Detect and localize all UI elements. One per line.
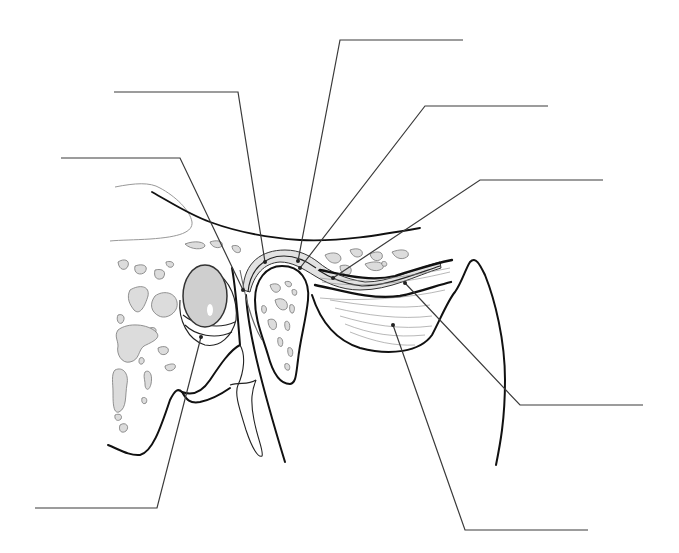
cancellous-bone-eminence: [325, 249, 408, 275]
leader-6: [403, 281, 643, 405]
leader-1: [296, 40, 463, 263]
leader-7: [391, 323, 588, 530]
leader-8: [35, 335, 203, 508]
external-auditory-meatus: [180, 265, 237, 345]
cancellous-bone-left: [113, 241, 241, 432]
tmj-diagram: [0, 0, 679, 553]
lateral-pterygoid-muscle: [312, 260, 505, 465]
leader-2: [114, 92, 267, 264]
temporal-bone: [108, 184, 420, 455]
leader-3: [298, 106, 548, 270]
mandibular-condyle: [255, 266, 308, 384]
